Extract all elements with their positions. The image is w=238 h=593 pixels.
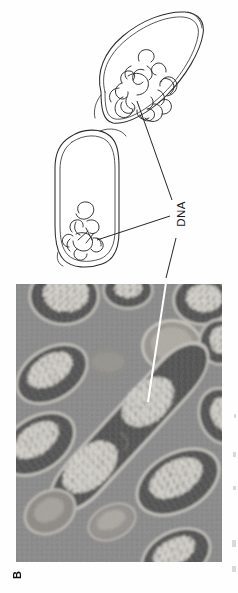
scan-artifact [234, 414, 236, 418]
dna-label-text: DNA [175, 192, 187, 236]
scan-artifact [232, 540, 236, 547]
dna-label: DNA [164, 196, 198, 232]
electron-micrograph [16, 284, 222, 562]
panel-letter: B [6, 563, 28, 589]
scan-artifact [233, 486, 236, 490]
panel-letter-text: B [11, 561, 23, 589]
figure-panel: .ln{fill:none;stroke:#2b2b2b;stroke-widt… [0, 0, 238, 593]
scan-artifact [233, 452, 236, 457]
leader-to-micrograph [166, 238, 176, 278]
bacterial-cell-schematic: .ln{fill:none;stroke:#2b2b2b;stroke-widt… [0, 0, 238, 285]
scan-artifact [232, 566, 236, 572]
